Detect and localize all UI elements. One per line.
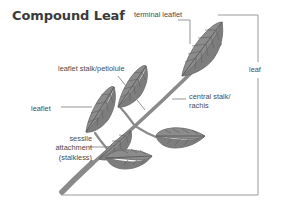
label-sessile-line-3: (stalkless) — [24, 153, 92, 162]
leaflet-right — [156, 128, 205, 148]
label-leaf: leaf — [249, 65, 261, 74]
label-central-stalk-line-2: rachis — [189, 101, 231, 110]
page-title: Compound Leaf — [12, 8, 125, 23]
diagram-page: Compound Leaf terminal leaflet leaflet s… — [0, 0, 283, 215]
label-central-stalk-rachis: central stalk/ rachis — [189, 92, 231, 111]
label-sessile-line-1: sessile — [24, 134, 92, 143]
leaflet-mid-left — [86, 87, 115, 133]
label-sessile-attachment: sessile attachment (stalkless) — [24, 134, 92, 162]
terminal-leaflet — [182, 22, 223, 76]
petiolule-upper-left — [119, 106, 135, 126]
label-sessile-line-2: attachment — [24, 143, 92, 152]
petiolule-right — [135, 126, 156, 137]
label-leaflet: leaflet — [31, 104, 51, 113]
label-leaflet-stalk-petiolule: leaflet stalk/petiolule — [58, 64, 125, 73]
leader-terminal-leaflet — [178, 20, 190, 44]
label-central-stalk-line-1: central stalk/ — [189, 92, 231, 101]
label-terminal-leaflet: terminal leaflet — [134, 10, 182, 19]
